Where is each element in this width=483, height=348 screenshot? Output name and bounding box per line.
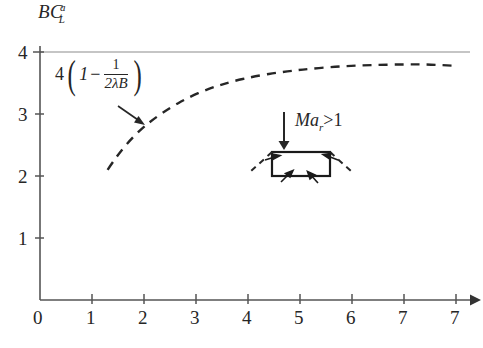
mach-relation: > bbox=[323, 110, 333, 130]
x-tick-label-4: 4 bbox=[242, 307, 252, 329]
y-tick-label-1: 1 bbox=[18, 228, 28, 250]
y-tick-label-4: 4 bbox=[18, 42, 28, 64]
formula-denominator: 2λB bbox=[104, 76, 127, 92]
formula-annotation: 4 ( 1 − 1 2λB ) bbox=[55, 58, 144, 91]
inset-inward-arrows bbox=[265, 154, 338, 184]
formula-close-paren: ) bbox=[133, 59, 141, 91]
x-tick-label-1: 1 bbox=[86, 307, 96, 329]
mach-symbol: Ma bbox=[295, 110, 319, 130]
mach-value: 1 bbox=[333, 110, 342, 130]
inset-shock-lines bbox=[250, 152, 352, 172]
formula-coefficient: 4 bbox=[55, 64, 64, 85]
formula-fraction: 1 2λB bbox=[104, 58, 127, 91]
y-axis-label: BCaL bbox=[38, 1, 65, 25]
y-axis-label-superscript: a bbox=[60, 1, 66, 13]
x-tick-label-2: 2 bbox=[138, 307, 148, 329]
x-tick-label-7: 7 bbox=[398, 307, 408, 329]
mach-number-annotation: Mar>1 bbox=[295, 110, 342, 133]
data-curve-dashed bbox=[108, 64, 452, 169]
x-axis-ticks bbox=[92, 294, 456, 304]
x-tick-label-8: 7 bbox=[450, 307, 460, 329]
y-axis-ticks bbox=[33, 52, 44, 238]
shock-wave-inset bbox=[250, 152, 352, 183]
y-axis-label-subscript: L bbox=[59, 13, 65, 25]
x-tick-label-0: 0 bbox=[33, 307, 43, 329]
formula-minus: − bbox=[90, 64, 100, 85]
x-tick-label-6: 6 bbox=[346, 307, 356, 329]
formula-numerator: 1 bbox=[113, 58, 120, 73]
formula-pointer-arrow bbox=[118, 106, 145, 125]
x-tick-label-5: 5 bbox=[294, 307, 304, 329]
y-tick-label-3: 3 bbox=[18, 104, 28, 126]
x-tick-label-3: 3 bbox=[190, 307, 200, 329]
x-axis-arrowhead bbox=[470, 295, 481, 306]
formula-one: 1 bbox=[79, 64, 88, 85]
formula-open-paren: ( bbox=[68, 59, 76, 91]
y-tick-label-2: 2 bbox=[18, 166, 28, 188]
incoming-flow-arrow bbox=[279, 112, 290, 150]
